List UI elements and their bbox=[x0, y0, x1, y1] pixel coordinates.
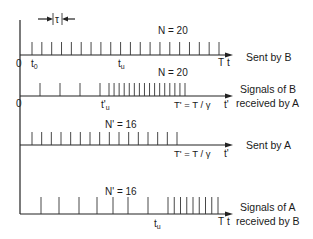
origin-label: 0 bbox=[16, 98, 22, 109]
tau-label: τ bbox=[55, 14, 59, 25]
row-signals-a-received-by-b: N' = 16 tu T t Signals of A received by … bbox=[20, 186, 300, 230]
axis-var-label: t bbox=[227, 216, 230, 227]
count-label: N = 20 bbox=[158, 25, 188, 36]
row-sent-by-b: N = 20 0 t0 tu T t Sent by B bbox=[16, 25, 292, 70]
tu-label: tu bbox=[154, 218, 161, 230]
tu-prime-label: t'u bbox=[101, 99, 110, 111]
row-sent-by-a: N' = 16 T' = T / γ t' Sent by A bbox=[20, 119, 291, 159]
axis-var-label: t bbox=[227, 57, 230, 68]
end-T-prime-label: T' = T / γ bbox=[174, 99, 211, 110]
end-T-prime-label: T' = T / γ bbox=[174, 148, 211, 159]
arrow-head-icon bbox=[225, 94, 233, 99]
side-label-line1: Signals of A bbox=[240, 201, 295, 213]
tu-label: tu bbox=[118, 58, 125, 70]
twin-paradox-signal-diagram: τ N = 20 0 t0 tu T t Sent by B N = 20 0 … bbox=[0, 0, 313, 239]
count-label: N = 20 bbox=[158, 67, 188, 78]
side-label-line2: received by A bbox=[236, 97, 299, 109]
end-T-label: T bbox=[218, 57, 224, 68]
side-label: Sent by A bbox=[246, 139, 291, 151]
ticks-row2 bbox=[40, 83, 185, 96]
axis-var-label: t' bbox=[224, 99, 229, 110]
end-T-label: T bbox=[218, 216, 224, 227]
count-label: N' = 16 bbox=[105, 119, 137, 130]
side-label-line2: received by B bbox=[236, 215, 300, 227]
axis-var-label: t' bbox=[224, 148, 229, 159]
tau-interval-marker: τ bbox=[38, 13, 75, 25]
arrow-head-icon bbox=[225, 143, 233, 148]
ticks-row1 bbox=[32, 42, 219, 55]
ticks-row3 bbox=[32, 132, 177, 145]
side-label-line1: Signals of B bbox=[240, 83, 296, 95]
side-label: Sent by B bbox=[246, 51, 292, 63]
origin-label: 0 bbox=[16, 58, 22, 69]
row-signals-b-received-by-a: N = 20 0 t'u T' = T / γ t' Signals of B … bbox=[16, 67, 299, 111]
count-label: N' = 16 bbox=[105, 186, 137, 197]
t0-label: t0 bbox=[31, 58, 38, 70]
ticks-row4 bbox=[41, 197, 218, 214]
